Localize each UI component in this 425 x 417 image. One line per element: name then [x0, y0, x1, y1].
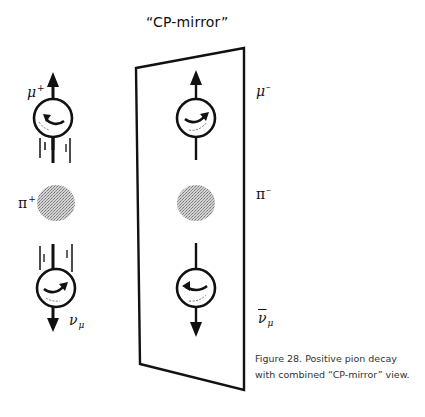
label-muon-antineutrino: νμ	[258, 311, 273, 328]
label-muon-neutrino: νμ	[69, 313, 84, 330]
left-pion-particle	[37, 185, 75, 221]
mirror-antineutrino-particle	[177, 243, 215, 337]
label-muon-minus: μ–	[256, 83, 271, 98]
mirror-pion-particle	[177, 185, 215, 221]
down-arrow-icon	[47, 318, 59, 332]
down-arrow-icon	[190, 322, 202, 337]
label-pion-plus: π+	[18, 195, 36, 210]
mirror-muon-particle	[177, 70, 215, 160]
up-arrow-icon	[47, 72, 59, 87]
figure-caption: Figure 28. Positive pion decay with comb…	[255, 351, 420, 383]
cp-mirror-diagram: “CP-mirror” μ+ π+ νμ μ– π– νμ Figure 28.…	[0, 0, 425, 417]
up-arrow-icon	[190, 70, 202, 85]
label-pion-minus: π–	[256, 186, 271, 201]
label-muon-plus: μ+	[27, 84, 45, 99]
mirror-title: “CP-mirror”	[146, 14, 229, 30]
